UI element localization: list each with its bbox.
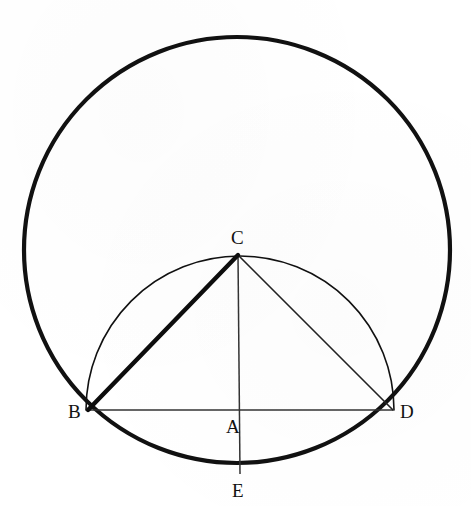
point-label-B: B [68, 402, 81, 421]
point-label-D: D [400, 402, 414, 421]
segment-CD [238, 255, 393, 410]
inner-semicircle-arc [86, 256, 394, 410]
segment-CE [238, 255, 240, 474]
point-label-C: C [231, 228, 244, 247]
segment-BC [88, 255, 238, 410]
geometry-figure: A B C D E [0, 0, 471, 506]
point-label-A: A [226, 417, 240, 436]
point-label-E: E [232, 481, 244, 500]
outer-circle [24, 37, 450, 463]
